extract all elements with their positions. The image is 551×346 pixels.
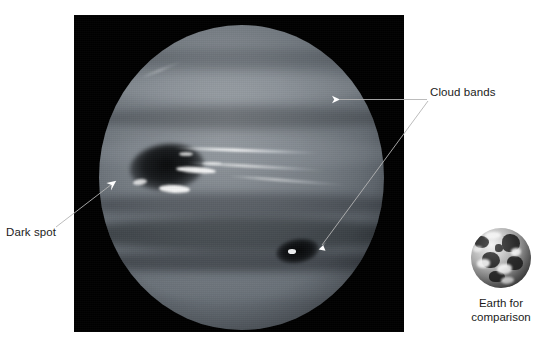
neptune-disc xyxy=(99,25,384,330)
planet-stage xyxy=(74,15,404,332)
neptune-photo-panel xyxy=(74,15,404,332)
figure-root: Cloud bands Dark spot Earth for comparis… xyxy=(0,0,551,346)
earth-globe-icon xyxy=(471,228,531,288)
earth-comparison-inset: Earth for comparison xyxy=(455,228,547,338)
earth-caption: Earth for comparison xyxy=(455,296,547,324)
label-dark-spot: Dark spot xyxy=(6,226,56,238)
earth-caption-line1: Earth for xyxy=(455,296,547,310)
earth-caption-line2: comparison xyxy=(455,310,547,324)
limb-darkening xyxy=(99,25,384,330)
label-cloud-bands: Cloud bands xyxy=(430,86,496,98)
